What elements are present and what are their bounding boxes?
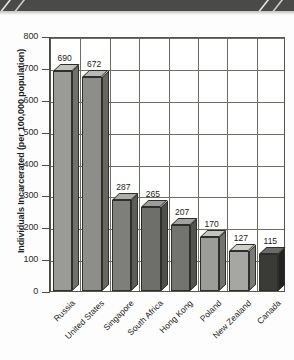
bar-side-face — [131, 193, 138, 291]
bar-front-face — [229, 251, 248, 291]
bar-value-label: 127 — [231, 233, 250, 243]
bar-value-label: 265 — [143, 189, 162, 199]
y-axis-tick — [42, 228, 50, 229]
bar — [229, 251, 248, 291]
y-axis-tick-label: 200 — [4, 222, 38, 232]
bar-chart: Individuals Incarcerated (per 100,000 po… — [0, 16, 294, 360]
bar-front-face — [53, 71, 72, 291]
bar-value-label: 690 — [55, 53, 74, 63]
bar-side-face — [190, 219, 197, 291]
bar — [200, 237, 219, 291]
y-axis-tick-label: 800 — [4, 31, 38, 41]
y-axis-tick — [42, 101, 50, 102]
x-axis-category-label: Russia — [51, 298, 76, 323]
y-axis-tick-label: 0 — [4, 286, 38, 296]
plot-area — [50, 37, 285, 292]
bar — [53, 71, 72, 291]
bar — [112, 200, 131, 291]
bar-side-face — [249, 244, 256, 291]
y-axis-tick — [42, 292, 50, 293]
gridline-vertical — [257, 38, 258, 291]
gridline-vertical — [198, 38, 199, 291]
bar-front-face — [112, 200, 131, 291]
gridline-vertical — [169, 38, 170, 291]
bar-front-face — [259, 254, 278, 291]
gridline-vertical — [227, 38, 228, 291]
bar-front-face — [141, 207, 160, 291]
x-axis-category-label: Canada — [254, 298, 282, 326]
y-axis-tick-label: 600 — [4, 95, 38, 105]
bar — [141, 207, 160, 291]
bar-value-label: 170 — [202, 219, 221, 229]
y-axis-tick — [42, 37, 50, 38]
bar-front-face — [171, 225, 190, 291]
bar-value-label: 115 — [261, 236, 280, 246]
y-axis-tick — [42, 260, 50, 261]
bar-value-label: 287 — [114, 182, 133, 192]
bar — [82, 77, 101, 291]
bar-value-label: 207 — [173, 207, 192, 217]
gridline-horizontal — [51, 70, 284, 71]
bar-side-face — [219, 230, 226, 291]
band-shadow — [0, 11, 294, 15]
y-axis-tick — [42, 196, 50, 197]
bar-front-face — [82, 77, 101, 291]
y-axis-tick — [42, 133, 50, 134]
gridline-vertical — [139, 38, 140, 291]
bar-side-face — [161, 200, 168, 291]
bar — [259, 254, 278, 291]
y-axis-tick-label: 400 — [4, 159, 38, 169]
x-axis-category-label: Poland — [198, 298, 224, 324]
decorative-top-band — [0, 0, 294, 11]
bar-side-face — [102, 70, 109, 291]
y-axis-tick-label: 700 — [4, 63, 38, 73]
bar — [171, 225, 190, 291]
y-axis-tick-label: 300 — [4, 190, 38, 200]
gridline-horizontal — [51, 38, 284, 39]
bar-value-label: 672 — [84, 59, 103, 69]
y-axis-tick-label: 100 — [4, 254, 38, 264]
bar-side-face — [278, 248, 285, 291]
gridline-vertical — [110, 38, 111, 291]
y-axis-tick-label: 500 — [4, 127, 38, 137]
y-axis-tick — [42, 165, 50, 166]
y-axis-tick — [42, 69, 50, 70]
bar-side-face — [72, 65, 79, 291]
bar-front-face — [200, 237, 219, 291]
